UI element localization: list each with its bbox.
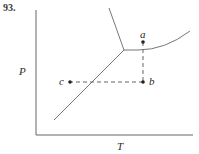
melting-curve: [109, 8, 124, 50]
sublimation-curve: [54, 50, 124, 120]
phase-boundaries: [54, 8, 190, 120]
point-a: [141, 40, 145, 44]
dashed-paths: [70, 42, 143, 82]
points: [68, 40, 145, 84]
point-b: [141, 80, 145, 84]
point-c: [68, 80, 72, 84]
vaporization-curve: [124, 31, 190, 50]
phase-diagram: [0, 0, 199, 154]
axes: [36, 10, 193, 135]
